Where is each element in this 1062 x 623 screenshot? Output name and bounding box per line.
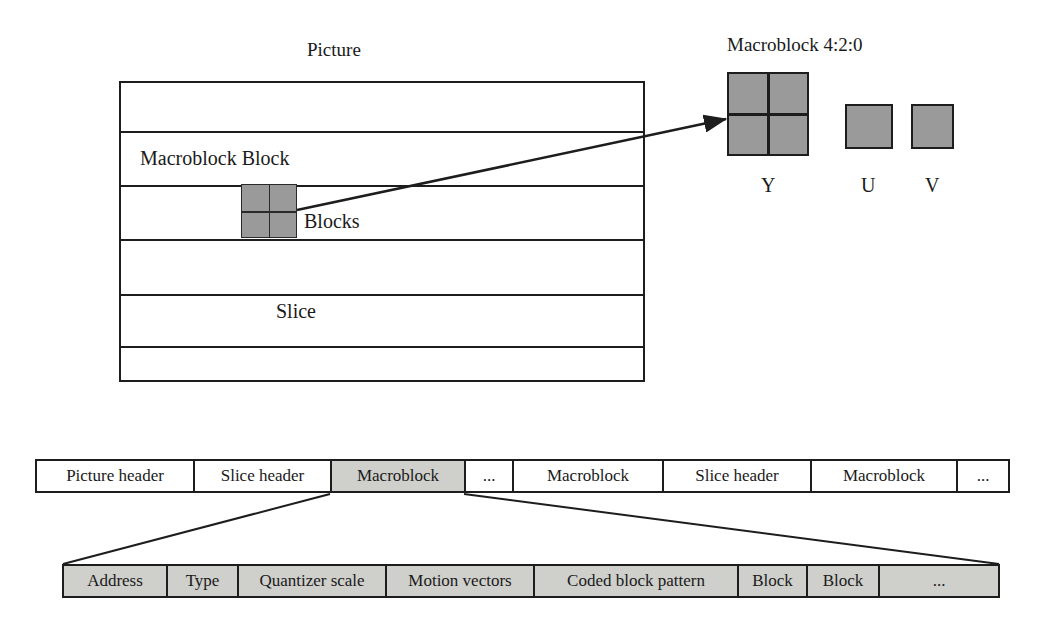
slice-label: Slice	[276, 301, 316, 321]
stream-cell-macroblock-3[interactable]: Macroblock	[812, 461, 958, 491]
y-component-label: Y	[761, 175, 775, 195]
u-component-block	[845, 104, 893, 149]
mb-cell-motion-vectors[interactable]: Motion vectors	[387, 566, 535, 596]
picture-rectangle	[119, 81, 645, 382]
u-component-label: U	[861, 175, 875, 195]
blocks-label: Blocks	[304, 211, 360, 231]
v-component-block	[911, 104, 954, 149]
stream-cell-picture-header[interactable]: Picture header	[37, 461, 195, 491]
video-bitstream-bar: Picture header Slice header Macroblock .…	[35, 459, 1010, 493]
slice-divider-5	[119, 346, 645, 348]
stream-cell-macroblock-highlighted[interactable]: Macroblock	[332, 461, 466, 491]
y-block-horizontal-divider	[729, 113, 807, 116]
stream-cell-slice-header-1[interactable]: Slice header	[195, 461, 332, 491]
slice-divider-2	[119, 185, 645, 187]
diagram-canvas: Picture Macroblock Block Blocks Slice Ma…	[0, 0, 1062, 623]
mb-cell-coded-block-pattern[interactable]: Coded block pattern	[535, 566, 739, 596]
stream-cell-ellipsis-1[interactable]: ...	[466, 461, 514, 491]
mb-cell-quantizer-scale[interactable]: Quantizer scale	[239, 566, 387, 596]
slice-divider-4	[119, 294, 645, 296]
mb-cell-block-2[interactable]: Block	[808, 566, 880, 596]
picture-title: Picture	[307, 40, 361, 59]
stream-cell-macroblock-2[interactable]: Macroblock	[514, 461, 664, 491]
stream-cell-slice-header-2[interactable]: Slice header	[664, 461, 812, 491]
blocks-grid-horizontal-divider	[242, 211, 296, 213]
macroblock-block-label: Macroblock Block	[140, 148, 289, 168]
slice-divider-1	[119, 131, 645, 133]
mb-cell-address[interactable]: Address	[64, 566, 168, 596]
v-component-label: V	[925, 175, 939, 195]
connector-right	[464, 494, 999, 564]
mb-cell-block-1[interactable]: Block	[739, 566, 808, 596]
mb-cell-type[interactable]: Type	[168, 566, 239, 596]
macroblock-420-title: Macroblock 4:2:0	[727, 35, 863, 54]
y-component-block	[727, 72, 809, 156]
stream-cell-ellipsis-2[interactable]: ...	[958, 461, 1008, 491]
connector-left	[63, 494, 330, 564]
slice-divider-3	[119, 239, 645, 241]
macroblock-layer-bar: Address Type Quantizer scale Motion vect…	[62, 564, 1000, 598]
mb-cell-ellipsis[interactable]: ...	[880, 566, 998, 596]
blocks-grid	[241, 184, 297, 238]
